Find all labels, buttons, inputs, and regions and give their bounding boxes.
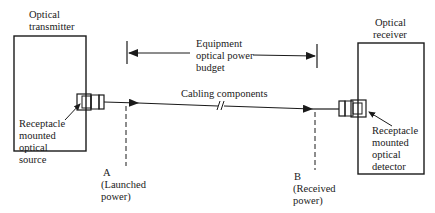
detector-label-line1: Receptacle — [372, 125, 418, 136]
transmitter-label-line2: transmitter — [29, 21, 75, 32]
budget-label-line1: Equipment — [196, 38, 242, 49]
detector-label-line2: mounted — [372, 137, 409, 148]
point-a: A (Launched power) — [101, 106, 147, 203]
point-a-label-line2: (Launched — [101, 179, 147, 191]
source-label-line1: Receptacle — [19, 118, 65, 129]
detector-pointer-arrow — [369, 112, 392, 126]
optical-receiver: Optical receiver Receptacle mounted opti… — [358, 17, 424, 174]
point-b-label-line1: B — [294, 171, 301, 182]
point-b-label-line3: power) — [293, 195, 323, 207]
source-label-line3: optical — [19, 142, 48, 153]
point-b-label-line2: (Received — [293, 183, 336, 195]
budget-label-line3: budget — [196, 62, 225, 73]
transmitter-connector-icon — [77, 94, 104, 110]
detector-label-line4: detector — [372, 161, 406, 172]
receiver-connector-icon — [339, 100, 366, 117]
optical-transmitter: Optical transmitter Receptacle mounted o… — [14, 9, 86, 165]
point-a-label-line1: A — [103, 167, 111, 178]
point-b: B (Received power) — [293, 112, 336, 207]
cabling-label: Cabling components — [181, 88, 268, 99]
transmitter-label-line1: Optical — [29, 9, 60, 20]
detector-label-line3: optical — [372, 149, 401, 160]
receiver-label-line1: Optical — [375, 17, 406, 28]
source-label-line2: mounted — [19, 130, 56, 141]
source-label-line4: source — [19, 154, 47, 165]
point-a-label-line3: power) — [101, 191, 131, 203]
power-budget-span: Equipment optical power budget — [127, 38, 317, 73]
source-pointer-arrow — [65, 104, 80, 120]
receiver-label-line2: receiver — [373, 29, 407, 40]
cabling-line: Cabling components — [104, 88, 339, 110]
power-budget-diagram: Optical transmitter Receptacle mounted o… — [0, 0, 435, 213]
budget-label-line2: optical power — [196, 50, 254, 61]
